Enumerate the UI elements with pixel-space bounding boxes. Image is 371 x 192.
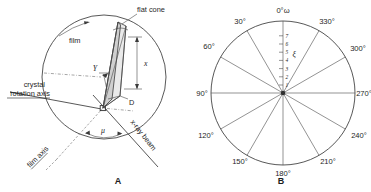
xray-beam-label-group: x-ray beam: [128, 118, 158, 153]
mu-label: μ: [101, 126, 105, 135]
polar-center-hub: [281, 91, 286, 96]
angle-label-270: 270°: [356, 89, 371, 98]
spoke-300: [283, 57, 345, 93]
angle-label-30: 30°: [234, 17, 245, 26]
angle-label-210: 210°: [320, 157, 336, 166]
d-label: D: [129, 98, 134, 107]
figure-svg: flat cone film crystal rotation axis fil…: [0, 0, 371, 192]
xray-beam-label: x-ray beam: [128, 118, 158, 153]
figure-root: flat cone film crystal rotation axis fil…: [0, 0, 371, 192]
film-label: film: [69, 36, 81, 45]
rotation-direction-arrowhead: [84, 21, 90, 24]
rotation-direction-arc: [59, 22, 88, 36]
rotation-axis-label: rotation axis: [10, 89, 50, 98]
spoke-210: [283, 93, 319, 155]
radial-tick-label-1: 1: [285, 82, 288, 88]
upsilon-arrowhead: [102, 73, 108, 78]
flat-cone-leader: [122, 14, 137, 24]
upsilon-label: Υ: [93, 64, 99, 73]
x-dimension-arrow-bottom: [135, 84, 139, 89]
radial-tick-label-6: 6: [285, 41, 288, 47]
x-dimension-arrow-top: [135, 37, 139, 42]
spoke-240: [283, 93, 345, 129]
angle-label-240: 240°: [351, 131, 367, 140]
angle-label-120: 120°: [198, 131, 214, 140]
panel-b: 1 2 3 4 5 6 7 ξ 0°ω 30° 60° 90° 120° 150…: [196, 6, 371, 186]
angle-label-150: 150°: [232, 157, 248, 166]
radial-scale: 1 2 3 4 5 6 7 ξ: [279, 33, 297, 88]
d-leader-line: [120, 96, 128, 99]
angle-label-60: 60°: [203, 42, 214, 51]
film-axis-line-ext: [46, 158, 58, 170]
construction-line-right: [107, 109, 134, 112]
radial-tick-label-2: 2: [285, 74, 288, 80]
angle-label-0: 0°ω: [276, 6, 289, 15]
angle-label-330: 330°: [319, 17, 335, 26]
radial-tick-label-3: 3: [284, 66, 288, 72]
radial-tick-label-5: 5: [285, 49, 288, 55]
spoke-150: [247, 93, 283, 155]
film-axis-label-group: film axis: [25, 144, 50, 169]
mu-arc-arrowhead-right: [117, 131, 122, 135]
film-axis-label: film axis: [25, 144, 50, 169]
angle-label-90: 90°: [196, 89, 207, 98]
crystal-label: crystal: [24, 80, 46, 89]
film-axis-line: [56, 108, 103, 160]
spoke-60: [221, 57, 283, 93]
x-dimension-label: x: [143, 59, 148, 68]
spoke-120: [221, 93, 283, 129]
radial-tick-label-7: 7: [285, 33, 288, 39]
mu-arc-arrowhead-left: [85, 131, 90, 135]
construction-line-horizontal: [44, 73, 101, 77]
spoke-30: [247, 31, 283, 93]
xi-axis-label: ξ: [293, 50, 297, 59]
radial-tick-label-4: 4: [285, 57, 288, 63]
angle-label-300: 300°: [350, 44, 366, 53]
spoke-330: [283, 31, 319, 93]
panel-a: flat cone film crystal rotation axis fil…: [7, 5, 166, 186]
flat-cone-label: flat cone: [137, 5, 165, 14]
panel-b-caption: B: [278, 176, 285, 186]
panel-a-caption: A: [115, 176, 122, 186]
